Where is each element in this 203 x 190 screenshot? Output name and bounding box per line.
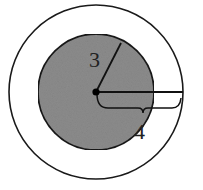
inner-radius-label: 3: [89, 47, 100, 72]
concentric-circles-diagram: 3 4: [0, 0, 203, 190]
outer-radius-label: 4: [134, 119, 145, 144]
center-point: [92, 88, 99, 95]
